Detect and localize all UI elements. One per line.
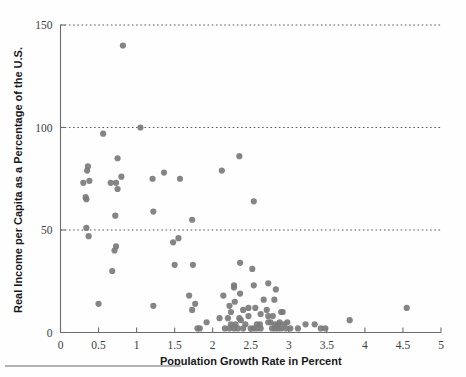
data-point bbox=[120, 42, 126, 48]
y-axis-title: Real Income per Capita as a Percentage o… bbox=[12, 47, 24, 313]
data-point bbox=[204, 319, 210, 325]
data-point bbox=[236, 153, 242, 159]
data-point bbox=[280, 309, 286, 315]
data-point bbox=[237, 260, 243, 266]
data-point bbox=[261, 297, 267, 303]
x-tick-label-3: 1.5 bbox=[167, 339, 182, 351]
data-point bbox=[295, 325, 301, 331]
data-point bbox=[189, 217, 195, 223]
data-point bbox=[170, 239, 176, 245]
data-point bbox=[86, 178, 92, 184]
x-tick-label-4: 2 bbox=[210, 339, 216, 351]
data-point bbox=[86, 233, 92, 239]
data-point bbox=[118, 174, 124, 180]
data-point bbox=[322, 325, 328, 331]
data-point bbox=[273, 286, 279, 292]
data-point bbox=[251, 198, 257, 204]
scatter-plot-figure: 00.511.522.533.544.55 050100150 Populati… bbox=[0, 0, 466, 377]
x-tick-label-8: 4 bbox=[362, 339, 368, 351]
data-point bbox=[113, 180, 119, 186]
data-point bbox=[161, 170, 167, 176]
y-tick-label-2: 100 bbox=[35, 122, 53, 134]
page-footer-rule bbox=[5, 365, 181, 367]
x-tick-label-6: 3 bbox=[286, 339, 292, 351]
data-point bbox=[175, 235, 181, 241]
data-point bbox=[302, 321, 308, 327]
data-point bbox=[80, 180, 86, 186]
data-point bbox=[220, 293, 226, 299]
data-point bbox=[111, 247, 117, 253]
data-point bbox=[235, 325, 241, 331]
data-point bbox=[108, 180, 114, 186]
data-point bbox=[271, 297, 277, 303]
data-point bbox=[240, 325, 246, 331]
data-point bbox=[100, 131, 106, 137]
data-point bbox=[237, 290, 243, 296]
data-point bbox=[312, 321, 318, 327]
data-point bbox=[240, 307, 246, 313]
data-point bbox=[95, 301, 101, 307]
data-point bbox=[226, 303, 232, 309]
data-point bbox=[189, 307, 195, 313]
x-tick-label-0: 0 bbox=[58, 339, 64, 351]
data-point bbox=[231, 284, 237, 290]
data-point bbox=[228, 309, 234, 315]
scatter-plot-canvas: 00.511.522.533.544.55 050100150 Populati… bbox=[0, 0, 466, 377]
data-point bbox=[287, 325, 293, 331]
data-point bbox=[225, 315, 231, 321]
data-point bbox=[245, 305, 251, 311]
x-axis-title: Population Growth Rate in Percent bbox=[160, 355, 342, 367]
data-point bbox=[251, 282, 257, 288]
data-point bbox=[83, 225, 89, 231]
data-point bbox=[190, 262, 196, 268]
data-point bbox=[83, 196, 89, 202]
y-tick-label-3: 150 bbox=[35, 19, 53, 31]
data-point bbox=[245, 313, 251, 319]
data-point bbox=[114, 155, 120, 161]
data-point bbox=[270, 313, 276, 319]
data-point bbox=[177, 176, 183, 182]
data-point bbox=[219, 167, 225, 173]
data-point bbox=[150, 208, 156, 214]
x-tick-label-9: 4.5 bbox=[396, 339, 411, 351]
data-point bbox=[249, 266, 255, 272]
data-point bbox=[149, 176, 155, 182]
data-point bbox=[150, 303, 156, 309]
gridlines-group bbox=[61, 25, 442, 230]
data-point bbox=[252, 305, 258, 311]
data-point bbox=[172, 262, 178, 268]
data-point bbox=[265, 280, 271, 286]
data-point bbox=[112, 213, 118, 219]
data-point bbox=[186, 293, 192, 299]
axes-group bbox=[61, 25, 442, 333]
x-tick-label-10: 5 bbox=[438, 339, 444, 351]
y-tick-label-1: 50 bbox=[41, 224, 53, 236]
data-point bbox=[84, 167, 90, 173]
x-tick-label-1: 0.5 bbox=[91, 339, 106, 351]
data-point bbox=[404, 305, 410, 311]
data-points-group bbox=[80, 42, 410, 331]
data-point bbox=[137, 124, 143, 130]
y-tick-label-0: 0 bbox=[47, 327, 53, 339]
data-point bbox=[232, 299, 238, 305]
x-tick-label-2: 1 bbox=[134, 339, 140, 351]
data-point bbox=[264, 307, 270, 313]
data-point bbox=[258, 325, 264, 331]
x-tick-label-5: 2.5 bbox=[244, 339, 259, 351]
data-point bbox=[347, 317, 353, 323]
data-point bbox=[258, 311, 264, 317]
x-tick-label-7: 3.5 bbox=[320, 339, 335, 351]
data-point bbox=[216, 315, 222, 321]
data-point bbox=[192, 301, 198, 307]
data-point bbox=[114, 186, 120, 192]
data-point bbox=[109, 268, 115, 274]
data-point bbox=[197, 325, 203, 331]
